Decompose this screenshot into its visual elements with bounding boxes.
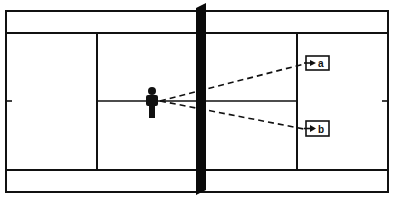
target-b-label: b (318, 124, 324, 135)
trajectory-line-a (160, 64, 304, 101)
tennis-court-diagram: a b (0, 0, 397, 198)
target-a: a (304, 56, 329, 70)
target-a-label: a (318, 58, 324, 69)
target-b: b (304, 121, 329, 136)
player-icon (146, 87, 158, 118)
net (196, 3, 206, 195)
trajectory-line-b (160, 101, 304, 129)
